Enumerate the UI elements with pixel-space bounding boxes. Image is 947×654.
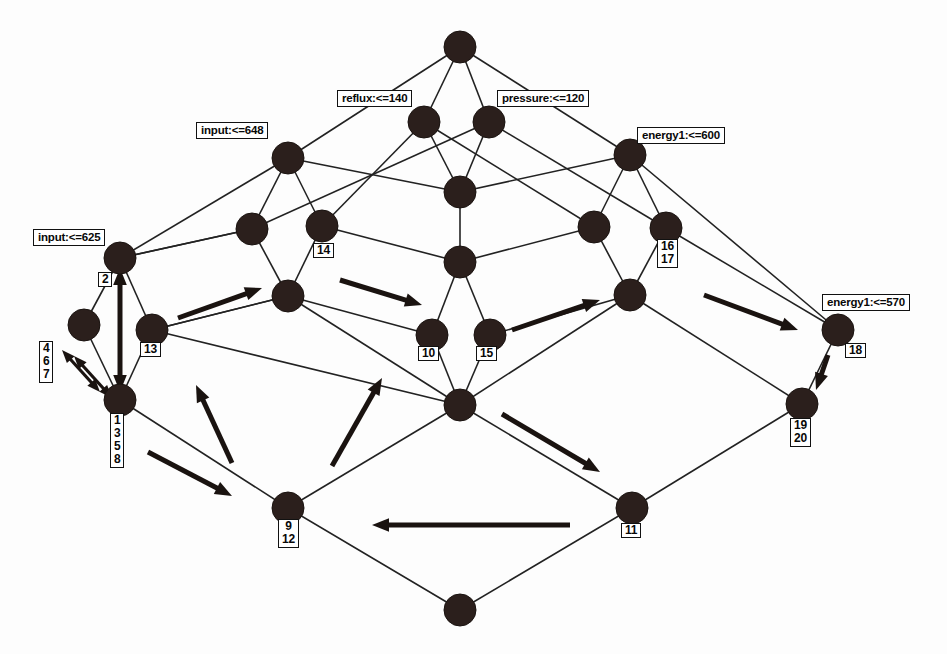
lattice-edge xyxy=(460,227,594,262)
lattice-node[interactable] xyxy=(236,213,268,245)
flow-arrow xyxy=(502,414,600,472)
object-label[interactable]: 18 xyxy=(845,343,866,358)
flow-arrow xyxy=(113,268,127,392)
object-label[interactable]: 1 3 5 8 xyxy=(110,413,124,468)
lattice-edge xyxy=(120,400,288,508)
flow-arrow xyxy=(815,355,828,390)
lattice-edge xyxy=(120,229,252,258)
lattice-edge xyxy=(288,405,460,508)
object-label[interactable]: 19 20 xyxy=(790,418,811,447)
lattice-node[interactable] xyxy=(408,106,440,138)
lattice-node[interactable] xyxy=(444,31,476,63)
object-label[interactable]: 15 xyxy=(476,346,497,361)
lattice-node[interactable] xyxy=(578,211,610,243)
flow-arrow xyxy=(196,385,232,463)
object-label[interactable]: 13 xyxy=(140,342,161,357)
lattice-edge xyxy=(630,295,802,404)
lattice-node[interactable] xyxy=(444,389,476,421)
object-label[interactable]: 11 xyxy=(621,523,641,538)
object-label[interactable]: 14 xyxy=(313,243,334,258)
lattice-node[interactable] xyxy=(473,106,505,138)
lattice-node[interactable] xyxy=(444,246,476,278)
object-label[interactable]: 4 6 7 xyxy=(39,341,53,383)
attribute-label[interactable]: energy1:<=570 xyxy=(822,294,910,311)
lattice-node[interactable] xyxy=(104,384,136,416)
attribute-label[interactable]: energy1:<=600 xyxy=(637,127,725,144)
lattice-node[interactable] xyxy=(614,279,646,311)
lattice-edge xyxy=(322,226,460,262)
lattice-node[interactable] xyxy=(306,210,338,242)
lattice-diagram-canvas: reflux:<=140pressure:<=120input:<=648ene… xyxy=(0,0,947,654)
attribute-label[interactable]: reflux:<=140 xyxy=(337,90,412,107)
lattice-edge xyxy=(288,158,460,192)
flow-arrow xyxy=(62,350,100,392)
object-label[interactable]: 2 xyxy=(98,272,112,287)
flow-arrow xyxy=(704,295,798,330)
attribute-label[interactable]: input:<=648 xyxy=(196,122,268,139)
object-label[interactable]: 16 17 xyxy=(657,239,678,268)
flow-arrow xyxy=(332,378,382,466)
lattice-node[interactable] xyxy=(616,492,648,524)
lattice-node[interactable] xyxy=(444,594,476,626)
lattice-node[interactable] xyxy=(444,176,476,208)
lattice-edge xyxy=(424,122,594,227)
lattice-node[interactable] xyxy=(272,142,304,174)
lattice-graph xyxy=(0,0,947,654)
attribute-label[interactable]: input:<=625 xyxy=(33,229,105,246)
attribute-label[interactable]: pressure:<=120 xyxy=(497,90,589,107)
nodes-layer xyxy=(68,31,854,626)
lattice-node[interactable] xyxy=(104,242,136,274)
lattice-edge xyxy=(632,404,802,508)
flow-arrow xyxy=(372,518,570,532)
lattice-edge xyxy=(252,122,489,229)
lattice-node[interactable] xyxy=(68,309,100,341)
object-label[interactable]: 10 xyxy=(418,346,439,361)
flow-arrow xyxy=(512,299,600,330)
object-label[interactable]: 9 12 xyxy=(278,519,299,548)
lattice-node[interactable] xyxy=(786,388,818,420)
lattice-node[interactable] xyxy=(822,314,854,346)
lattice-edge xyxy=(460,405,632,508)
flow-arrow xyxy=(340,280,422,307)
flow-arrow xyxy=(148,452,232,496)
lattice-node[interactable] xyxy=(272,280,304,312)
